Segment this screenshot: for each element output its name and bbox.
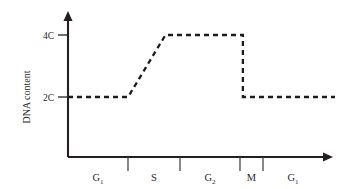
y-tick-label-2c: 2C bbox=[43, 93, 54, 103]
phase-label-m-base: M bbox=[247, 172, 257, 183]
chart-canvas: 4C 2C DNA content G1 S G2 M G1 bbox=[0, 0, 341, 189]
phase-label-g2-sub: 2 bbox=[212, 178, 216, 186]
phase-label-s-base: S bbox=[151, 172, 157, 183]
phase-label-m: M bbox=[247, 172, 257, 183]
dna-content-cell-cycle-figure: 4C 2C DNA content G1 S G2 M G1 bbox=[0, 0, 341, 189]
phase-label-g2: G2 bbox=[204, 172, 216, 186]
phase-label-g1-first: G1 bbox=[92, 172, 104, 186]
y-axis-title: DNA content bbox=[21, 70, 32, 123]
dna-content-curve bbox=[68, 35, 335, 97]
phase-label-g1-second: G1 bbox=[287, 172, 299, 186]
y-axis-arrow-icon bbox=[64, 11, 73, 21]
phase-label-g1-second-sub: 1 bbox=[295, 178, 299, 186]
phase-label-g1-first-sub: 1 bbox=[100, 178, 104, 186]
x-axis-arrow-icon bbox=[323, 153, 333, 162]
phase-label-s: S bbox=[151, 172, 157, 183]
y-tick-label-4c: 4C bbox=[43, 31, 54, 41]
